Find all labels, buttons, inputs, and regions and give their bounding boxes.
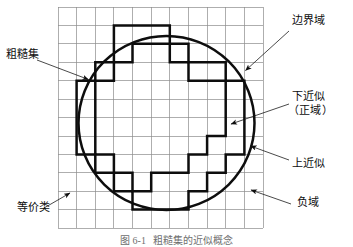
leader-upper-approximation <box>251 146 290 160</box>
caption-number: 图 6-1 <box>120 235 146 246</box>
caption-text: 粗糙集的近似概念 <box>153 235 233 246</box>
leader-boundary-region <box>246 31 290 71</box>
label-rough-set: 粗糙集 <box>6 48 40 61</box>
rough-set-diagram <box>0 0 353 247</box>
figure-container: 粗糙集 边界域 下近似 （正域） 上近似 负域 等价类 图 6-1粗糙集的近似概… <box>0 0 353 247</box>
label-boundary-region: 边界域 <box>292 14 326 27</box>
label-upper-approximation: 上近似 <box>292 157 326 170</box>
leader-rough-set <box>37 60 89 80</box>
label-negative-region: 负域 <box>297 196 319 209</box>
label-equivalence-class: 等价类 <box>17 201 51 214</box>
equivalence-class-grid <box>58 7 263 228</box>
label-positive-region: （正域） <box>288 104 333 118</box>
leader-lower-approximation <box>231 104 289 124</box>
leader-negative-region <box>251 190 291 204</box>
label-lower-approximation: 下近似 <box>292 90 326 103</box>
leader-lines <box>37 31 291 208</box>
figure-caption: 图 6-1粗糙集的近似概念 <box>0 232 353 247</box>
